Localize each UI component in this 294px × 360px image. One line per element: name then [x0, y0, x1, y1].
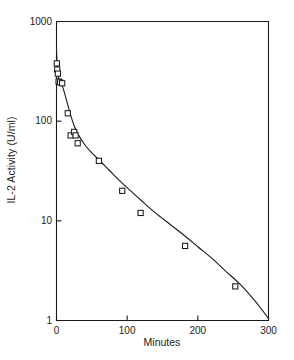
data-point-marker [60, 81, 65, 86]
data-point-marker [65, 111, 70, 116]
data-point-marker [73, 133, 78, 138]
data-point-marker [75, 141, 80, 146]
data-point-marker [55, 71, 60, 76]
data-point-marker [96, 158, 101, 163]
fitted-curve [57, 50, 269, 319]
data-point-marker [183, 243, 188, 248]
data-point-marker [54, 61, 59, 66]
axis-ticks [57, 22, 269, 321]
decay-curve-path [57, 50, 269, 319]
data-point-marker [233, 284, 238, 289]
plot-frame-box [57, 22, 269, 321]
data-markers [54, 61, 238, 289]
plot-area [0, 0, 294, 360]
data-point-marker [138, 210, 143, 215]
chart-figure: IL-2 Activity (U/ml) 1101001000 01002003… [0, 0, 294, 360]
plot-frame [57, 22, 269, 321]
data-point-marker [120, 188, 125, 193]
